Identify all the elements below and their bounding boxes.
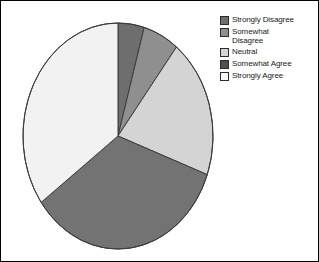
legend-swatch-icon bbox=[220, 60, 229, 69]
legend-swatch-icon bbox=[220, 28, 229, 37]
legend-item[interactable]: Neutral bbox=[220, 47, 318, 57]
legend-item-label: Somewhat Disagree bbox=[232, 27, 269, 45]
legend-swatch-icon bbox=[220, 72, 229, 81]
legend-item[interactable]: Somewhat Disagree bbox=[220, 27, 318, 45]
legend-swatch-icon bbox=[220, 16, 229, 25]
legend-swatch-icon bbox=[220, 48, 229, 57]
legend-item[interactable]: Strongly Disagree bbox=[220, 15, 318, 25]
legend-item-label: Somewhat Agree bbox=[232, 59, 292, 68]
legend-item-label: Neutral bbox=[232, 47, 257, 56]
legend-item[interactable]: Strongly Agree bbox=[220, 71, 318, 81]
legend-item-label: Strongly Agree bbox=[232, 71, 283, 80]
legend-item-label: Strongly Disagree bbox=[232, 15, 294, 24]
pie-chart-figure: Strongly Disagree: 4.5%Somewhat Disagree… bbox=[0, 0, 319, 262]
chart-legend: Strongly DisagreeSomewhat DisagreeNeutra… bbox=[220, 15, 318, 81]
legend-item[interactable]: Somewhat Agree bbox=[220, 59, 318, 69]
